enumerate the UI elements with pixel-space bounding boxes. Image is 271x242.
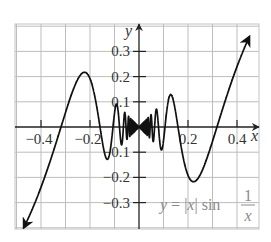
svg-text:y = |x| sin: y = |x| sin xyxy=(158,196,220,214)
x-tick-label: −0.4 xyxy=(25,131,53,147)
formula-eq: = | xyxy=(167,196,187,214)
x-axis-label: x xyxy=(250,127,258,144)
x-tick-label: −0.2 xyxy=(74,131,101,147)
function-plot: −0.4−0.20.20.40.30.20.1−0.1−0.2−0.3 x y … xyxy=(0,0,271,242)
formula-annotation: y = |x| sin 1 x xyxy=(158,187,255,224)
y-tick-label: 0.1 xyxy=(111,94,130,110)
y-tick-label: −0.2 xyxy=(103,169,130,185)
y-tick-label: 0.3 xyxy=(111,43,130,59)
formula-denominator: x xyxy=(243,207,251,224)
formula-x: x xyxy=(186,196,194,213)
formula-sin: | sin xyxy=(194,196,220,214)
y-tick-label: 0.2 xyxy=(111,69,130,85)
y-axis-label: y xyxy=(123,22,133,40)
y-tick-label: −0.3 xyxy=(103,195,130,211)
x-tick-label: 0.4 xyxy=(228,131,247,147)
formula-numerator: 1 xyxy=(244,187,252,204)
